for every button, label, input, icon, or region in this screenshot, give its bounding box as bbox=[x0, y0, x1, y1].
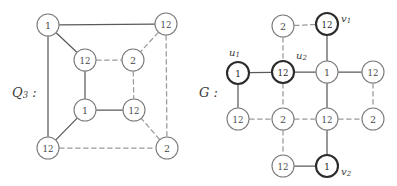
right-node-label: 12 bbox=[278, 68, 289, 78]
right-node-n-2b1[interactable]: 2 bbox=[272, 108, 294, 130]
left-node-o-br[interactable]: 2 bbox=[156, 137, 178, 159]
right-node-n-12bot[interactable]: 12 bbox=[272, 155, 294, 177]
right-node-label: 1 bbox=[324, 67, 330, 78]
left-node-label: 1 bbox=[82, 105, 88, 116]
left-node-label: 1 bbox=[45, 20, 51, 31]
right-node-n-12bl[interactable]: 12 bbox=[227, 108, 249, 130]
right-node-n-v1[interactable]: 12 bbox=[316, 13, 338, 35]
vertex-label-v2: v2 bbox=[341, 166, 352, 178]
right-node-label: 12 bbox=[368, 68, 379, 78]
left-edge-o-tr-o-br bbox=[166, 36, 167, 137]
left-graph-edges bbox=[48, 24, 167, 148]
right-node-n-v2[interactable]: 1 bbox=[316, 155, 338, 177]
right-node-label: 12 bbox=[278, 162, 289, 172]
right-graph-nodes: 212112112122122121 bbox=[227, 13, 384, 177]
left-node-i-tr[interactable]: 2 bbox=[122, 49, 144, 71]
left-node-label: 12 bbox=[161, 20, 172, 30]
left-node-label: 12 bbox=[129, 106, 140, 116]
right-node-label: 1 bbox=[235, 68, 241, 79]
vertex-label-v1: v1 bbox=[341, 13, 351, 25]
left-node-label: 2 bbox=[130, 55, 136, 66]
graph-figure: 112122122112 Q3 : 212112112122122121 u1u… bbox=[0, 0, 397, 186]
left-node-i-tl[interactable]: 12 bbox=[74, 49, 96, 71]
right-edge-n-2top-n-v1 bbox=[295, 25, 316, 26]
left-edge-i-tr-i-br bbox=[133, 72, 134, 99]
left-node-i-bl[interactable]: 1 bbox=[74, 99, 96, 121]
right-node-n-u1[interactable]: 1 bbox=[227, 62, 249, 84]
left-edge-o-tl-i-tl bbox=[56, 33, 76, 52]
left-graph-label: Q3 : bbox=[12, 85, 37, 101]
right-graph-edges bbox=[238, 25, 373, 166]
right-node-label: 12 bbox=[322, 115, 333, 125]
right-node-n-2top[interactable]: 2 bbox=[272, 15, 294, 37]
right-graph-vertex-labels: u1u2v1v2 bbox=[229, 13, 352, 178]
left-edge-o-bl-i-bl bbox=[56, 118, 77, 139]
vertex-label-u2: u2 bbox=[296, 50, 307, 62]
right-node-n-u2[interactable]: 12 bbox=[272, 61, 294, 83]
right-node-label: 2 bbox=[280, 114, 286, 125]
left-edge-o-br-i-br bbox=[142, 119, 160, 139]
left-node-o-bl[interactable]: 12 bbox=[37, 137, 59, 159]
right-node-n-1mid[interactable]: 1 bbox=[316, 61, 338, 83]
right-node-n-12b2[interactable]: 12 bbox=[316, 108, 338, 130]
right-node-label: 12 bbox=[322, 20, 333, 30]
right-node-n-12re[interactable]: 12 bbox=[362, 61, 384, 83]
left-edge-o-tl-o-tr bbox=[60, 24, 155, 25]
left-node-i-br[interactable]: 12 bbox=[123, 99, 145, 121]
figure-canvas: 112122122112 Q3 : 212112112122122121 u1u… bbox=[0, 0, 397, 186]
vertex-label-u1: u1 bbox=[229, 47, 240, 59]
right-graph-label: G : bbox=[199, 85, 218, 100]
right-node-n-2br[interactable]: 2 bbox=[362, 108, 384, 130]
left-node-o-tl[interactable]: 1 bbox=[37, 14, 59, 36]
left-node-label: 12 bbox=[80, 56, 91, 66]
right-node-label: 2 bbox=[280, 21, 286, 32]
right-node-label: 2 bbox=[370, 114, 376, 125]
right-node-label: 1 bbox=[324, 161, 330, 172]
right-node-label: 12 bbox=[233, 115, 244, 125]
left-node-label: 2 bbox=[164, 143, 170, 154]
left-node-label: 12 bbox=[43, 144, 54, 154]
left-node-o-tr[interactable]: 12 bbox=[155, 13, 177, 35]
left-edge-o-tr-i-tr bbox=[141, 33, 158, 52]
